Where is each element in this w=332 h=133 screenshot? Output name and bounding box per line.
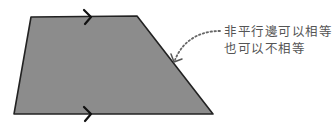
annotation-line-1: 非平行邊可以相等 [224, 23, 332, 40]
annotation-line-2: 也可以不相等 [224, 40, 332, 57]
trapezoid-shape [14, 16, 213, 114]
dotted-pointer-curve [175, 31, 220, 60]
annotation-label: 非平行邊可以相等 也可以不相等 [224, 23, 332, 57]
